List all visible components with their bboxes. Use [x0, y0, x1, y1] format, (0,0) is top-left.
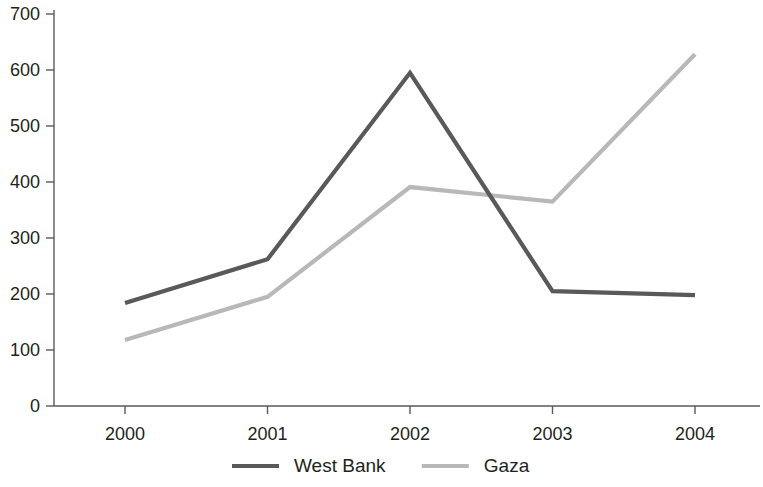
- x-tick-label: 2002: [390, 424, 430, 444]
- y-axis-ticks: 0100200300400500600700: [10, 4, 54, 416]
- x-tick-label: 2000: [105, 424, 145, 444]
- legend-label-gaza: Gaza: [484, 455, 530, 476]
- series-layer: [125, 54, 695, 340]
- y-tick-label: 300: [10, 228, 40, 248]
- y-tick-label: 200: [10, 284, 40, 304]
- x-tick-label: 2001: [247, 424, 287, 444]
- line-chart: 0100200300400500600700 20002001200220032…: [0, 0, 763, 487]
- legend-label-west-bank: West Bank: [294, 455, 386, 476]
- x-tick-label: 2003: [532, 424, 572, 444]
- y-tick-label: 700: [10, 4, 40, 24]
- axes: [54, 10, 760, 406]
- chart-canvas: 0100200300400500600700 20002001200220032…: [0, 0, 763, 487]
- x-tick-label: 2004: [675, 424, 715, 444]
- x-axis-ticks: 20002001200220032004: [105, 406, 715, 444]
- series-line-gaza: [125, 54, 695, 340]
- chart-legend: West BankGaza: [232, 455, 530, 476]
- y-tick-label: 0: [30, 396, 40, 416]
- y-tick-label: 500: [10, 116, 40, 136]
- y-tick-label: 400: [10, 172, 40, 192]
- y-tick-label: 100: [10, 340, 40, 360]
- y-tick-label: 600: [10, 60, 40, 80]
